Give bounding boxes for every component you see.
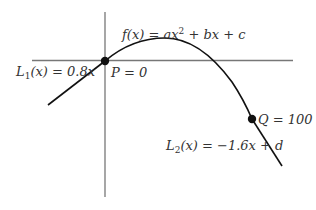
label-Q: Q = 100 [258, 112, 313, 127]
label-L1: L1(x) = 0.8x [15, 64, 96, 81]
point-P [101, 57, 109, 65]
label-f: f(x) = ax2 + bx + c [121, 26, 246, 42]
point-Q [248, 115, 256, 123]
diagram-canvas: f(x) = ax2 + bx + c L1(x) = 0.8x P = 0 Q… [0, 0, 316, 210]
label-L2: L2(x) = −1.6x + d [165, 138, 283, 155]
label-P: P = 0 [110, 65, 147, 80]
